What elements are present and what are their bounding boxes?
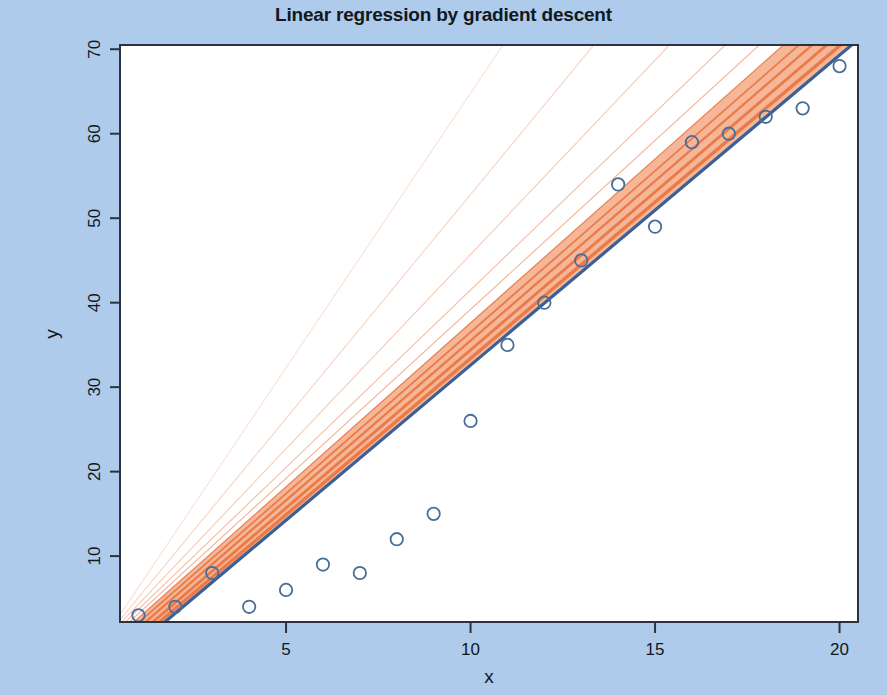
y-tick-label: 70 <box>85 40 104 59</box>
y-tick-label: 20 <box>85 462 104 481</box>
y-tick-label: 40 <box>85 293 104 312</box>
chart-figure: Linear regression by gradient descent 10… <box>0 0 887 695</box>
x-axis-ticks: 5101520 <box>281 622 849 659</box>
y-tick-label: 50 <box>85 209 104 228</box>
y-tick-label: 30 <box>85 378 104 397</box>
y-axis-ticks: 10203040506070 <box>85 40 120 566</box>
y-tick-label: 60 <box>85 124 104 143</box>
x-tick-label: 15 <box>646 640 665 659</box>
x-tick-label: 10 <box>461 640 480 659</box>
x-tick-label: 20 <box>830 640 849 659</box>
x-axis-label: x <box>484 666 494 687</box>
plot-canvas: 10203040506070 5101520 y x <box>0 0 887 695</box>
y-tick-label: 10 <box>85 547 104 566</box>
x-tick-label: 5 <box>281 640 290 659</box>
y-axis-label: y <box>41 329 62 339</box>
